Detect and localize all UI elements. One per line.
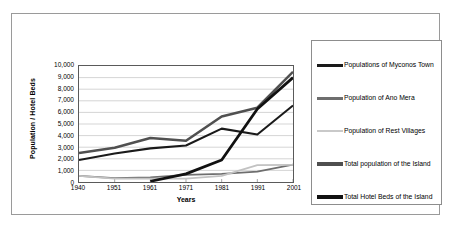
legend-item: Total Hotel Beds of the Island <box>317 191 441 203</box>
legend-color-swatch <box>317 97 343 100</box>
y-tick-label: 4,000 <box>58 133 74 140</box>
y-tick-label: 1,000 <box>58 168 74 175</box>
legend-item: Population of Rest Villages <box>317 125 441 137</box>
legend-color-swatch <box>317 162 343 166</box>
x-tick-label: 1971 <box>179 185 193 192</box>
chart-legend: Populations of Myconos TownPopulation of… <box>311 40 442 205</box>
legend-item: Populations of Myconos Town <box>317 59 441 71</box>
legend-item-label: Total Hotel Beds of the Island <box>344 194 432 201</box>
chart-outer-border: Population / Hotel Beds 10,0009,0008,000… <box>11 13 440 215</box>
y-tick-label: 10,000 <box>54 62 74 69</box>
legend-color-swatch <box>317 195 343 199</box>
x-axis-title: Years <box>78 196 294 203</box>
legend-item-label: Population of Rest Villages <box>344 128 425 135</box>
legend-color-swatch <box>317 64 343 67</box>
y-axis-tick-labels: 10,0009,0008,0007,0006,0005,0004,0003,00… <box>40 65 76 183</box>
y-tick-label: 3,000 <box>58 144 74 151</box>
y-tick-label: 7,000 <box>58 97 74 104</box>
y-axis-title-text: Population / Hotel Beds <box>29 78 36 159</box>
x-tick-label: 2001 <box>287 185 301 192</box>
y-tick-label: 5,000 <box>58 121 74 128</box>
y-tick-label: 8,000 <box>58 85 74 92</box>
y-axis-title: Population / Hotel Beds <box>24 62 40 174</box>
legend-item: Total population of the Island <box>317 158 441 170</box>
y-tick-label: 9,000 <box>58 74 74 81</box>
legend-item-label: Population of Ano Mera <box>344 95 415 102</box>
chart-figure: Population / Hotel Beds 10,0009,0008,000… <box>0 0 454 229</box>
plot-area <box>78 65 294 183</box>
x-tick-label: 1981 <box>215 185 229 192</box>
legend-item-label: Total population of the Island <box>344 161 431 168</box>
x-tick-label: 1940 <box>71 185 85 192</box>
x-tick-label: 1951 <box>107 185 121 192</box>
legend-item-label: Populations of Myconos Town <box>344 62 434 69</box>
legend-item: Population of Ano Mera <box>317 92 441 104</box>
x-tick-label: 1991 <box>251 185 265 192</box>
y-tick-label: 2,000 <box>58 156 74 163</box>
y-tick-label: 6,000 <box>58 109 74 116</box>
series-line <box>79 105 293 160</box>
x-tick-label: 1961 <box>143 185 157 192</box>
series-line <box>79 165 293 179</box>
legend-color-swatch <box>317 130 343 132</box>
series-lines <box>79 66 293 182</box>
plot-region: Population / Hotel Beds 10,0009,0008,000… <box>26 44 303 204</box>
